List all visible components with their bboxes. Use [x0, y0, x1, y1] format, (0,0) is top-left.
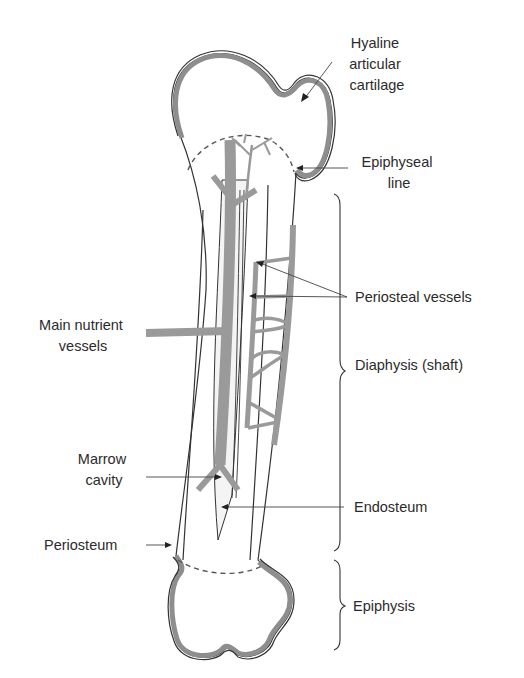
diaphysis-brace — [334, 194, 345, 551]
label-main-nutrient: Main nutrient vessels — [39, 317, 127, 354]
label-endosteum: Endosteum — [354, 499, 427, 515]
label-diaphysis: Diaphysis (shaft) — [355, 357, 463, 373]
periosteal-vessels — [247, 225, 293, 445]
epiphyseal-line-bottom — [178, 560, 262, 573]
label-hyaline: Hyaline articular cartilage — [349, 35, 405, 93]
label-periosteum: Periosteum — [44, 537, 117, 553]
epiphyseal-line-top — [188, 135, 294, 172]
bone-diagram: Hyaline articular cartilage Epiphyseal l… — [0, 0, 524, 678]
label-periosteal-vessels: Periosteal vessels — [355, 289, 472, 305]
epiphysis-brace — [334, 560, 345, 650]
label-epiphysis: Epiphysis — [353, 598, 415, 614]
articular-cartilage-top — [176, 56, 330, 176]
label-marrow-cavity: Marrow cavity — [78, 451, 130, 488]
label-epiphyseal-line: Epiphyseal line — [362, 154, 437, 191]
